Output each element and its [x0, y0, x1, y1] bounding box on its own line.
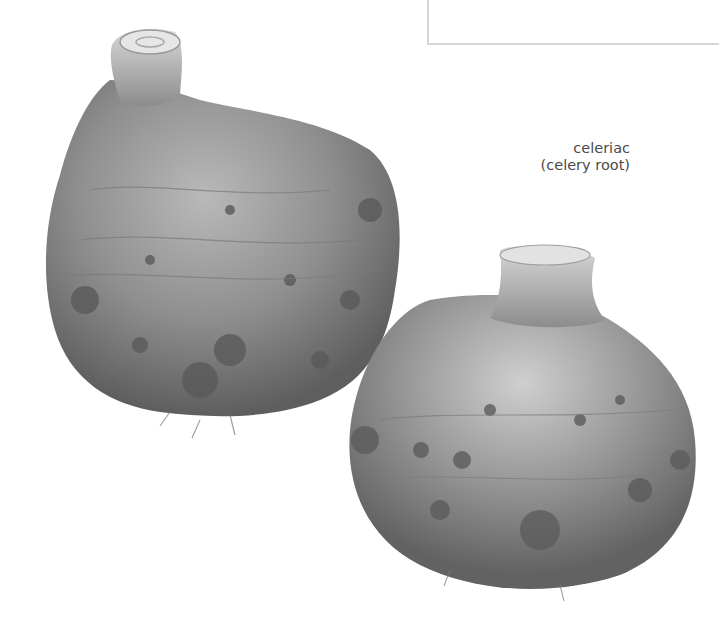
caption-label: celeriac (celery root) [541, 140, 630, 174]
caption-line-1: celeriac [541, 140, 630, 157]
celeriac-root-small [349, 245, 695, 601]
celeriac-root-large [46, 29, 400, 438]
caption-line-2: (celery root) [541, 157, 630, 174]
